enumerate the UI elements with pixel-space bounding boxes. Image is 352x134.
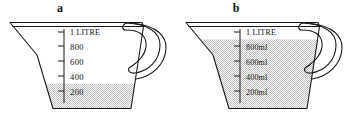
panel-b-label: b <box>148 1 324 15</box>
panel-a: a <box>0 0 176 134</box>
measuring-jugs-figure: 1 LITRE 800 600 400 200 1 LITRE 800ml 60… <box>0 0 352 134</box>
panel-a-label: a <box>0 1 148 15</box>
panel-b: b <box>176 0 352 134</box>
